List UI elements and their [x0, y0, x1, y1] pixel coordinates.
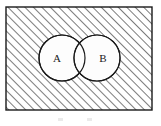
circle-a-label: A: [53, 52, 61, 64]
circle-b-fill: [75, 36, 120, 81]
circle-b-label: B: [99, 52, 106, 64]
scan-artifact-right: [87, 118, 92, 121]
venn-diagram-figure: A B: [0, 0, 161, 126]
scan-artifact-left: [58, 118, 63, 121]
venn-diagram-svg: A B: [0, 0, 161, 126]
